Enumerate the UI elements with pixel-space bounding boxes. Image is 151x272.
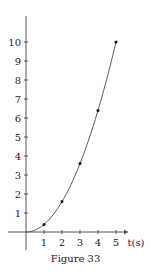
chart: 12345t(s)12345678910 bbox=[0, 0, 151, 272]
y-tick-label: 5 bbox=[15, 132, 21, 143]
y-tick-label: 10 bbox=[8, 37, 21, 48]
y-tick-label: 2 bbox=[15, 189, 21, 200]
x-tick-label: 5 bbox=[113, 237, 119, 248]
data-curve bbox=[26, 42, 116, 232]
y-tick-label: 9 bbox=[15, 56, 21, 67]
x-axis-arrow-icon bbox=[124, 230, 128, 235]
x-axis-label: t(s) bbox=[128, 237, 145, 248]
data-point bbox=[115, 41, 118, 44]
y-tick-label: 6 bbox=[15, 113, 21, 124]
y-tick-label: 8 bbox=[15, 75, 21, 86]
data-point bbox=[61, 200, 64, 203]
y-tick-label: 3 bbox=[15, 170, 21, 181]
x-tick-label: 1 bbox=[41, 237, 47, 248]
x-tick-label: 3 bbox=[77, 237, 83, 248]
data-point bbox=[97, 109, 100, 112]
y-tick-label: 1 bbox=[15, 208, 21, 219]
data-point bbox=[43, 223, 46, 226]
figure-caption: Figure 33 bbox=[0, 253, 151, 264]
data-point bbox=[79, 162, 82, 165]
y-tick-label: 7 bbox=[15, 94, 21, 105]
x-tick-label: 4 bbox=[95, 237, 101, 248]
x-tick-label: 2 bbox=[59, 237, 65, 248]
y-tick-label: 4 bbox=[15, 151, 21, 162]
